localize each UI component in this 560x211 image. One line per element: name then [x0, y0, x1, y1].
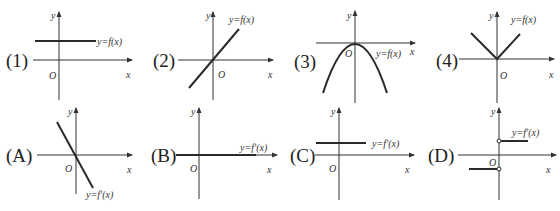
function-label: y=f′(x): [85, 189, 114, 201]
x-axis-label: x: [409, 46, 415, 57]
y-axis-label: y: [490, 106, 496, 117]
origin-label: O: [49, 70, 56, 81]
function-label: y=f(x): [510, 14, 537, 26]
graph-label: (D): [428, 145, 454, 167]
graph-4: (4) y x O y=f(x): [436, 10, 554, 103]
y-axis-label: y: [50, 10, 56, 21]
graph-1: (1) y x O y=f(x): [6, 10, 132, 100]
graph-label: (A): [6, 145, 32, 167]
origin-label: O: [500, 70, 507, 81]
origin-label: O: [65, 163, 72, 174]
graph-d: (D) y x O y=f′(x): [428, 106, 556, 200]
y-axis-label: y: [346, 10, 352, 21]
y-axis-label: y: [67, 106, 73, 117]
origin-label: O: [218, 69, 225, 80]
graph-label: (2): [153, 50, 175, 72]
origin-label: O: [345, 48, 352, 59]
x-axis-label: x: [126, 164, 132, 175]
x-axis-label: x: [545, 164, 551, 175]
open-circle: [497, 139, 501, 143]
origin-label: O: [190, 163, 197, 174]
y-axis-label: y: [488, 10, 494, 21]
y-axis-label: y: [205, 10, 211, 21]
origin-label: O: [329, 163, 336, 174]
function-label: y=f′(x): [239, 142, 268, 154]
graph-c: (C) y x O y=f′(x): [290, 106, 414, 200]
graph-2: (2) y x O y=f(x): [153, 10, 273, 100]
y-axis-label: y: [190, 106, 196, 117]
graph-label: (B): [151, 145, 176, 167]
function-label: y=f′(x): [371, 138, 400, 150]
graph-label: (3): [294, 51, 316, 73]
open-circle: [497, 167, 501, 171]
origin-label: O: [489, 157, 496, 168]
graph-label: (C): [290, 145, 315, 167]
graph-b: (B) y x O y=f′(x): [151, 106, 277, 199]
function-label: y=f(x): [96, 36, 123, 48]
function-curve: [471, 33, 520, 59]
graph-a: (A) y x O y=f′(x): [6, 106, 132, 201]
y-axis-label: y: [330, 106, 336, 117]
graph-label: (1): [6, 50, 28, 72]
x-axis-label: x: [548, 69, 554, 80]
x-axis-label: x: [404, 164, 410, 175]
graph-3: (3) y x O y=f(x): [294, 10, 415, 103]
function-label: y=f′(x): [511, 127, 540, 139]
x-axis-label: x: [125, 69, 131, 80]
function-label: y=f(x): [375, 48, 402, 60]
graph-label: (4): [436, 50, 458, 72]
function-label: y=f(x): [228, 14, 255, 26]
x-axis-label: x: [267, 69, 273, 80]
function-curve: [189, 29, 239, 88]
x-axis-label: x: [266, 164, 272, 175]
